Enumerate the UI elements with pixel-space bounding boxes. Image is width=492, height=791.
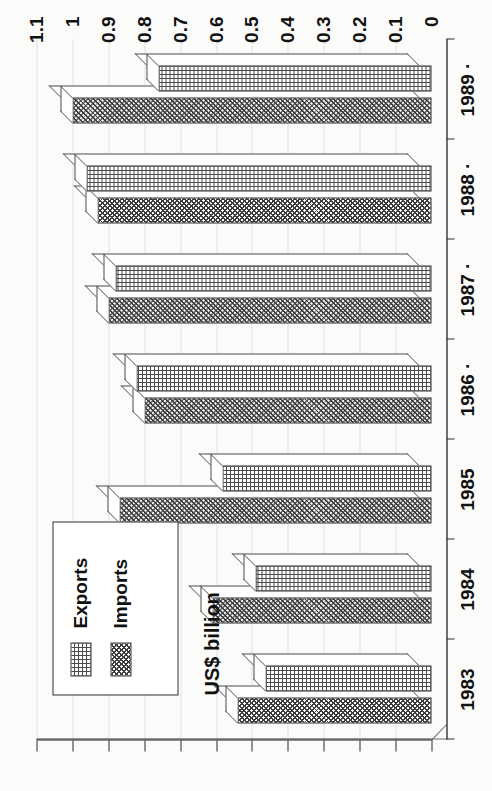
value-axis-tick-label: 1 (61, 16, 83, 27)
value-axis-tick-label: 1.1 (25, 16, 47, 42)
bar-exports-1983 (265, 665, 431, 691)
bar-side-face (241, 653, 419, 665)
category-label-1989: 1989 · (456, 62, 478, 116)
value-axis-tick-label: 0.4 (276, 16, 298, 42)
value-axis-title: US$ billion (200, 592, 223, 695)
value-axis-tick (72, 740, 73, 751)
legend-item-imports: Imports (109, 522, 131, 676)
bar-exports-1989 (158, 65, 431, 91)
bar-front-face (265, 665, 431, 691)
category-label-1985: 1985 (456, 468, 478, 510)
value-axis-tick-label: 0.6 (205, 16, 227, 42)
bar-imports-1984 (212, 597, 431, 623)
bar-imports-1988 (97, 197, 431, 223)
category-axis-tick (446, 138, 454, 139)
bar-front-face (136, 365, 431, 391)
bar-imports-1985 (119, 497, 431, 523)
bar-front-face (72, 97, 431, 123)
bar-front-face (237, 697, 431, 723)
bar-side-face (134, 53, 419, 65)
bar-side-face (231, 553, 419, 565)
legend-label-imports: Imports (109, 558, 131, 628)
legend: Exports Imports (52, 521, 178, 695)
bar-exports-1985 (222, 465, 431, 491)
value-axis-tick (108, 740, 109, 751)
rotated-chart-canvas: 1.110.90.80.70.60.50.40.30.20.10 1983198… (0, 0, 492, 791)
legend-swatch-imports-icon (110, 642, 131, 676)
bar-front-face (255, 565, 431, 591)
bar-exports-1987 (115, 265, 431, 291)
value-axis-tick-label: 0 (420, 16, 442, 27)
value-axis-tick (431, 740, 432, 751)
category-label-1986: 1986 · (456, 362, 478, 416)
category-axis-tick (446, 238, 454, 239)
value-axis-tick (180, 740, 181, 751)
value-axis-tick (251, 740, 252, 751)
value-axis-tick-label: 0.2 (348, 16, 370, 42)
legend-label-exports: Exports (69, 557, 91, 628)
value-axis-tick-label: 0.1 (384, 16, 406, 42)
bar-side-face (112, 353, 419, 365)
value-axis-tick (395, 740, 396, 751)
floor-band-3d (431, 39, 447, 739)
bar-imports-1986 (144, 397, 431, 423)
category-axis-tick (446, 438, 454, 439)
bar-front-face (86, 165, 431, 191)
floor-corner-3d (431, 722, 447, 739)
value-axis-tick (144, 740, 145, 751)
category-axis-tick (446, 538, 454, 539)
value-axis-tick-label: 0.3 (312, 16, 334, 42)
category-axis-tick (446, 38, 454, 39)
bar-front-face (115, 265, 431, 291)
value-axis-tick-label: 0.8 (133, 16, 155, 42)
value-axis-tick (359, 740, 360, 751)
category-label-1988: 1988 · (456, 162, 478, 216)
bar-front-face (97, 197, 431, 223)
category-axis-tick (446, 738, 454, 739)
bar-front-face (119, 497, 431, 523)
bar-exports-1988 (86, 165, 431, 191)
value-axis-tick (36, 740, 37, 751)
bar-front-face (144, 397, 431, 423)
bar-imports-1983 (237, 697, 431, 723)
category-label-1987: 1987 · (456, 262, 478, 316)
bar-side-face (62, 153, 419, 165)
bar-side-face (198, 453, 419, 465)
bar-chart: 1.110.90.80.70.60.50.40.30.20.10 1983198… (0, 0, 492, 791)
category-axis-tick (446, 638, 454, 639)
bar-side-face (91, 253, 419, 265)
bar-exports-1984 (255, 565, 431, 591)
bar-front-face (108, 297, 431, 323)
legend-swatch-exports-icon (70, 642, 91, 676)
category-axis (446, 39, 447, 739)
value-axis-tick (216, 740, 217, 751)
value-axis (36, 739, 432, 751)
bar-front-face (158, 65, 431, 91)
value-axis-tick-label: 0.7 (169, 16, 191, 42)
bar-front-face (222, 465, 431, 491)
value-axis-tick-label: 0.9 (97, 16, 119, 42)
value-axis-tick (323, 740, 324, 751)
bar-exports-1986 (136, 365, 431, 391)
bar-front-face (212, 597, 431, 623)
category-axis-tick (446, 338, 454, 339)
legend-item-exports: Exports (69, 522, 91, 676)
value-axis-tick (287, 740, 288, 751)
category-label-1983: 1983 (456, 668, 478, 710)
bar-imports-1987 (108, 297, 431, 323)
category-label-1984: 1984 (456, 568, 478, 610)
value-axis-tick-label: 0.5 (240, 16, 262, 42)
bar-imports-1989 (72, 97, 431, 123)
